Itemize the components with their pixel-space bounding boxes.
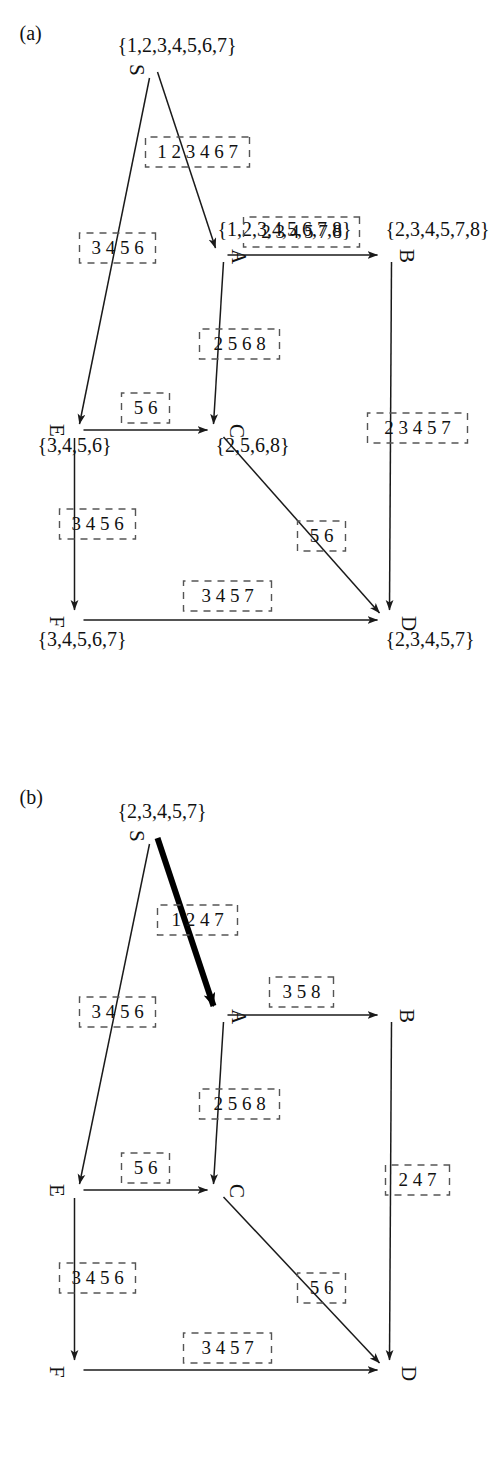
svg-text:5 6: 5 6 bbox=[133, 397, 157, 418]
subfigure-a: S A B C D E F {1,2,3,4,5,6,7} {1,2,3,4,5… bbox=[0, 0, 489, 760]
node-label-C-b: C bbox=[224, 1184, 248, 1198]
edge-label-E-F-a: 3 4 5 6 bbox=[59, 509, 135, 539]
svg-text:2 5 6 8: 2 5 6 8 bbox=[213, 333, 265, 354]
svg-text:2 4 7: 2 4 7 bbox=[398, 1169, 436, 1190]
node-label-F-a: F bbox=[44, 616, 68, 628]
svg-text:5 6: 5 6 bbox=[309, 1277, 333, 1298]
node-set-S-a: {1,2,3,4,5,6,7} bbox=[117, 34, 236, 56]
edge-labels-a: 1 2 3 4 6 7 3 4 5 6 2 3 4 5 7 8 2 5 6 8 bbox=[59, 137, 467, 611]
node-label-A-a: A bbox=[226, 249, 250, 265]
edge-label-B-D-b: 2 4 7 bbox=[385, 1165, 449, 1195]
edge-label-F-D-b: 3 4 5 7 bbox=[183, 1333, 271, 1363]
node-label-S-a: S bbox=[124, 64, 148, 76]
edge-B-D-b bbox=[389, 1022, 391, 1360]
subfigure-b: S A B C D E F {2,3,4,5,7} 1 2 4 7 bbox=[0, 760, 489, 1466]
edge-label-F-D-a: 3 4 5 7 bbox=[183, 581, 271, 611]
node-label-E-b: E bbox=[44, 1184, 68, 1197]
edge-label-E-C-a: 5 6 bbox=[121, 393, 169, 423]
node-set-B-a: {2,3,4,5,7,8} bbox=[385, 218, 489, 240]
svg-text:5 6: 5 6 bbox=[133, 1157, 157, 1178]
edge-label-B-D-a: 2 3 4 5 7 bbox=[367, 413, 467, 443]
edge-label-S-A-a: 1 2 3 4 6 7 bbox=[145, 137, 249, 167]
edge-label-A-B-b: 3 5 8 bbox=[269, 977, 333, 1007]
svg-text:3 4 5 6: 3 4 5 6 bbox=[91, 1001, 143, 1022]
edge-label-S-E-a: 3 4 5 6 bbox=[79, 233, 155, 263]
node-sets-b: {2,3,4,5,7} bbox=[117, 800, 206, 822]
subfigure-b-svg: S A B C D E F {2,3,4,5,7} 1 2 4 7 bbox=[0, 760, 489, 1466]
svg-text:2 3 4 5 7 8: 2 3 4 5 7 8 bbox=[261, 221, 342, 242]
subfigure-a-svg: S A B C D E F {1,2,3,4,5,6,7} {1,2,3,4,5… bbox=[0, 0, 489, 760]
svg-text:3 4 5 7: 3 4 5 7 bbox=[201, 585, 253, 606]
node-label-B-a: B bbox=[394, 249, 418, 263]
rotated-figure-canvas: S A B C D E F {1,2,3,4,5,6,7} {1,2,3,4,5… bbox=[0, 0, 489, 1466]
edge-label-A-C-b: 2 5 6 8 bbox=[199, 1089, 279, 1119]
edge-label-A-B-a: 2 3 4 5 7 8 bbox=[243, 217, 359, 247]
node-label-F-b: F bbox=[44, 1366, 68, 1378]
edge-label-S-E-b: 3 4 5 6 bbox=[79, 997, 155, 1027]
node-set-C-a: {2,5,6,8} bbox=[215, 434, 289, 456]
edge-label-S-A-b: 1 2 4 7 bbox=[157, 905, 237, 935]
svg-text:5 6: 5 6 bbox=[309, 525, 333, 546]
svg-text:3 4 5 6: 3 4 5 6 bbox=[71, 1267, 123, 1288]
node-label-D-b: D bbox=[396, 1366, 420, 1381]
svg-text:3 4 5 7: 3 4 5 7 bbox=[201, 1337, 253, 1358]
svg-text:2 3 4 5 7: 2 3 4 5 7 bbox=[384, 417, 451, 438]
edge-label-E-F-b: 3 4 5 6 bbox=[59, 1263, 135, 1293]
node-label-A-b: A bbox=[226, 1009, 250, 1025]
node-label-S-b: S bbox=[124, 830, 148, 842]
figure-page: S A B C D E F {1,2,3,4,5,6,7} {1,2,3,4,5… bbox=[0, 0, 489, 1466]
svg-text:1 2 3 4 6 7: 1 2 3 4 6 7 bbox=[157, 141, 238, 162]
svg-text:1 2 4 7: 1 2 4 7 bbox=[171, 909, 223, 930]
node-set-F-a: {3,4,5,6,7} bbox=[37, 628, 126, 650]
node-set-S-b: {2,3,4,5,7} bbox=[117, 800, 206, 822]
caption-b: (b) bbox=[19, 786, 42, 809]
node-set-E-a: {3,4,5,6} bbox=[37, 434, 111, 456]
svg-text:3 4 5 6: 3 4 5 6 bbox=[91, 237, 143, 258]
svg-text:2 5 6 8: 2 5 6 8 bbox=[213, 1093, 265, 1114]
svg-text:3 5 8: 3 5 8 bbox=[282, 981, 320, 1002]
node-label-B-b: B bbox=[394, 1009, 418, 1023]
node-set-D-a: {2,3,4,5,7} bbox=[385, 628, 474, 650]
edge-label-C-D-b: 5 6 bbox=[297, 1273, 345, 1303]
svg-text:3 4 5 6: 3 4 5 6 bbox=[71, 513, 123, 534]
caption-a: (a) bbox=[19, 22, 41, 45]
edge-label-E-C-b: 5 6 bbox=[121, 1153, 169, 1183]
edge-label-A-C-a: 2 5 6 8 bbox=[199, 329, 279, 359]
